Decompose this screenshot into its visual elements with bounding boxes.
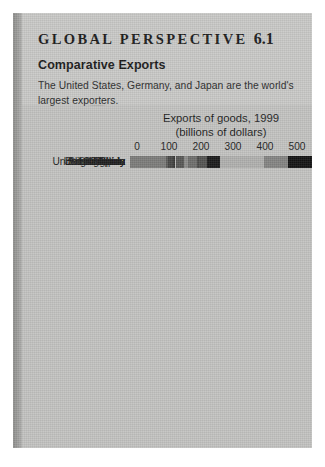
x-tick-0: 0 — [134, 141, 140, 152]
chart-title-block: Exports of goods, 1999 (billions of doll… — [123, 112, 312, 140]
x-tick-100: 100 — [161, 141, 178, 152]
chart-title: Exports of goods, 1999 — [123, 112, 312, 126]
x-tick-400: 400 — [257, 141, 274, 152]
page-title-number: 6.1 — [254, 30, 274, 47]
chart-subtitle: (billions of dollars) — [123, 126, 312, 140]
screenshot-root: GLOBAL PERSPECTIVE 6.1 Comparative Expor… — [0, 0, 325, 467]
x-tick-500: 500 — [289, 141, 306, 152]
panel-left-edge-stripe — [13, 13, 22, 448]
panel-description: The United States, Germany, and Japan ar… — [38, 79, 306, 108]
global-perspective-panel: GLOBAL PERSPECTIVE 6.1 Comparative Expor… — [13, 13, 312, 448]
bar-spain — [130, 156, 166, 168]
x-tick-200: 200 — [193, 141, 210, 152]
page-title: GLOBAL PERSPECTIVE 6.1 — [38, 30, 274, 48]
chart-bar-row: Spain — [130, 156, 312, 168]
panel-subtitle: Comparative Exports — [38, 58, 166, 72]
x-tick-300: 300 — [225, 141, 242, 152]
page-title-text: GLOBAL PERSPECTIVE — [38, 31, 248, 47]
bar-label-spain: Spain — [99, 155, 125, 168]
x-axis-tick-labels: 0100200300400500600 — [123, 141, 312, 154]
